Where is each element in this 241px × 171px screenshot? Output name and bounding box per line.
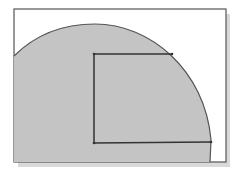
vertex-point bbox=[210, 141, 213, 144]
vertex-point bbox=[171, 53, 174, 56]
vertex-point bbox=[93, 142, 96, 145]
diagram-canvas bbox=[0, 0, 241, 171]
vertex-point bbox=[93, 53, 96, 56]
